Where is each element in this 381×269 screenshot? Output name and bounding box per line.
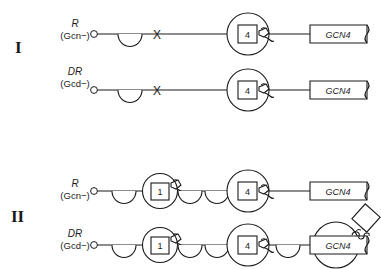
start-dot-icon [91, 188, 98, 195]
panel-I: I R (Gcn−) X 4 [15, 13, 369, 111]
panel-II: II R (Gcn−) 1 4 [11, 170, 380, 268]
factor-box-label: 1 [157, 187, 162, 197]
gene-label: GCN4 [325, 86, 350, 96]
gene-box-GCN4: GCN4 [310, 25, 369, 43]
gene-label: GCN4 [325, 241, 350, 251]
semicircle-node [112, 191, 136, 203]
row-label-II-DR: DR [68, 228, 82, 239]
row-sublabel-II-DR: (Gcd−) [60, 240, 89, 251]
row-sublabel-II-R: (Gcn−) [60, 190, 89, 201]
factor-box-label: 1 [157, 241, 162, 251]
gene-box-GCN4: GCN4 [310, 182, 369, 200]
semicircle-node-hatched [178, 245, 202, 258]
gene-box-GCN4: GCN4 [310, 81, 369, 99]
factor-box-label: 4 [245, 241, 250, 251]
row-label-I-DR: DR [68, 66, 82, 77]
semicircle-node [112, 245, 136, 258]
product-diamond-icon [352, 204, 380, 232]
semicircle-node [205, 191, 229, 203]
row-label-I-R: R [71, 18, 78, 29]
factor-box-label: 4 [245, 30, 250, 40]
start-dot-icon [91, 31, 98, 38]
panel-numeral-II: II [11, 207, 25, 226]
gene-label: GCN4 [325, 30, 350, 40]
gene-label: GCN4 [325, 187, 350, 197]
factor-box-label: 4 [245, 86, 250, 96]
panel-numeral-I: I [15, 38, 22, 57]
semicircle-node [178, 191, 202, 203]
row-I-DR: DR (Gcd−) X 4 GCN4 [60, 66, 369, 111]
factor-box-label: 4 [245, 187, 250, 197]
figure-canvas: I R (Gcn−) X 4 [0, 0, 381, 269]
start-dot-icon [91, 87, 98, 94]
row-sublabel-I-R: (Gcn−) [60, 30, 89, 41]
start-dot-icon [91, 242, 98, 249]
row-label-II-R: R [71, 178, 78, 189]
pathway-diagram: I R (Gcn−) X 4 [0, 0, 381, 269]
row-sublabel-I-DR: (Gcd−) [60, 78, 89, 89]
row-II-DR: DR (Gcd−) 1 4 [60, 204, 380, 268]
semicircle-node-hatched [276, 245, 300, 258]
block-x-icon: X [153, 28, 161, 42]
semicircle-node [118, 90, 142, 103]
row-I-R: R (Gcn−) X 4 GCN4 [60, 13, 369, 55]
block-x-icon: X [153, 84, 161, 98]
semicircle-node-hatched [205, 245, 229, 258]
semicircle-node [118, 34, 142, 47]
row-II-R: R (Gcn−) 1 4 [60, 170, 369, 212]
